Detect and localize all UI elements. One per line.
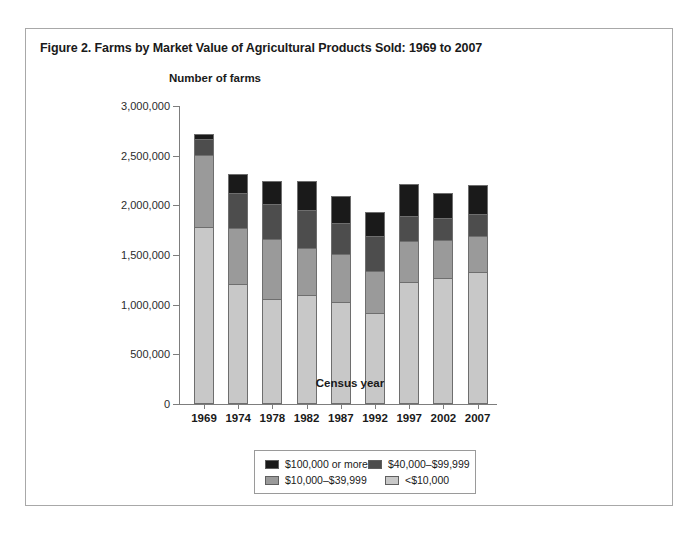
bar-segment[interactable] [331, 254, 351, 302]
bar-segment[interactable] [399, 241, 419, 282]
bar-group[interactable]: 1969 [194, 134, 214, 404]
x-axis-tick-mark [409, 404, 410, 409]
x-axis-tick-mark [238, 404, 239, 409]
y-axis-tick-label: 3,000,000 [121, 100, 170, 112]
legend-item[interactable]: <$10,000 [385, 474, 449, 486]
bar-segment[interactable] [399, 216, 419, 240]
bar-stack [365, 212, 385, 404]
bar-segment[interactable] [262, 204, 282, 239]
legend-label: <$10,000 [405, 474, 449, 486]
x-axis-tick-label: 1974 [225, 412, 251, 424]
x-axis-tick-mark [443, 404, 444, 409]
x-axis-title: Census year [26, 377, 674, 389]
bar-group[interactable]: 2007 [468, 185, 488, 404]
y-axis-tick-label: 2,000,000 [121, 199, 170, 211]
bar-stack [262, 181, 282, 404]
bar-segment[interactable] [194, 139, 214, 154]
bar-stack [433, 193, 453, 404]
y-axis-tick-label: 1,500,000 [121, 249, 170, 261]
bar-segment[interactable] [297, 181, 317, 210]
x-axis-tick-mark [204, 404, 205, 409]
x-axis-tick-label: 2007 [465, 412, 491, 424]
x-axis-tick-label: 1982 [294, 412, 320, 424]
bars-layer: 196919741978198219871992199720022007 [179, 106, 497, 405]
y-axis-tick-label: 1,000,000 [121, 299, 170, 311]
x-axis-tick-label: 1978 [260, 412, 286, 424]
y-axis-title: Number of farms [169, 72, 261, 84]
bar-segment[interactable] [468, 185, 488, 214]
figure-frame: Figure 2. Farms by Market Value of Agric… [25, 28, 673, 506]
bar-group[interactable]: 2002 [433, 193, 453, 404]
bar-segment[interactable] [194, 155, 214, 228]
bar-segment[interactable] [365, 313, 385, 404]
bar-segment[interactable] [365, 271, 385, 313]
x-axis-tick-mark [478, 404, 479, 409]
bar-segment[interactable] [365, 212, 385, 236]
bar-segment[interactable] [433, 218, 453, 239]
bar-segment[interactable] [331, 196, 351, 223]
legend-swatch-icon [265, 476, 279, 485]
bar-group[interactable]: 1992 [365, 212, 385, 404]
x-axis-tick-label: 1992 [362, 412, 388, 424]
bar-stack [331, 196, 351, 404]
y-axis-tick-label: 2,500,000 [121, 150, 170, 162]
bar-segment[interactable] [433, 240, 453, 278]
x-axis-tick-label: 1969 [191, 412, 217, 424]
legend-item[interactable]: $40,000–$99,999 [368, 458, 470, 470]
bar-segment[interactable] [331, 223, 351, 254]
bar-group[interactable]: 1987 [331, 196, 351, 404]
figure-title: Figure 2. Farms by Market Value of Agric… [40, 41, 482, 55]
legend-swatch-icon [368, 460, 382, 469]
plot-area: 3,000,0002,500,0002,000,0001,500,0001,00… [179, 106, 497, 405]
bar-segment[interactable] [262, 181, 282, 204]
legend-row: $10,000–$39,999<$10,000 [265, 474, 466, 486]
legend-swatch-icon [265, 460, 279, 469]
bar-segment[interactable] [399, 184, 419, 216]
bar-segment[interactable] [468, 236, 488, 273]
bar-segment[interactable] [365, 236, 385, 271]
bar-segment[interactable] [262, 239, 282, 299]
x-axis-tick-mark [341, 404, 342, 409]
bar-segment[interactable] [297, 248, 317, 295]
bar-stack [399, 184, 419, 404]
bar-group[interactable]: 1997 [399, 184, 419, 404]
y-axis-tick-label: 0 [164, 398, 170, 410]
bar-segment[interactable] [228, 174, 248, 193]
legend-label: $10,000–$39,999 [285, 474, 367, 486]
x-axis-tick-label: 1997 [396, 412, 422, 424]
bar-stack [297, 181, 317, 404]
y-axis-tick-label: 500,000 [130, 348, 170, 360]
bar-stack [194, 134, 214, 404]
chart-legend: $100,000 or more$40,000–$99,999$10,000–$… [254, 450, 476, 494]
x-axis-tick-mark [272, 404, 273, 409]
x-axis-tick-label: 1987 [328, 412, 354, 424]
bar-group[interactable]: 1974 [228, 174, 248, 404]
bar-segment[interactable] [433, 193, 453, 219]
bar-group[interactable]: 1982 [297, 181, 317, 404]
bar-segment[interactable] [468, 214, 488, 235]
legend-item[interactable]: $10,000–$39,999 [265, 474, 385, 486]
legend-row: $100,000 or more$40,000–$99,999 [265, 458, 466, 470]
bar-segment[interactable] [228, 193, 248, 227]
legend-label: $100,000 or more [285, 458, 368, 470]
bar-stack [228, 174, 248, 404]
legend-label: $40,000–$99,999 [388, 458, 470, 470]
bar-segment[interactable] [297, 210, 317, 248]
x-axis-tick-mark [375, 404, 376, 409]
legend-swatch-icon [385, 476, 399, 485]
bar-group[interactable]: 1978 [262, 181, 282, 404]
x-axis-tick-mark [307, 404, 308, 409]
bar-segment[interactable] [228, 228, 248, 285]
bar-stack [468, 185, 488, 404]
legend-item[interactable]: $100,000 or more [265, 458, 368, 470]
x-axis-tick-label: 2002 [431, 412, 457, 424]
